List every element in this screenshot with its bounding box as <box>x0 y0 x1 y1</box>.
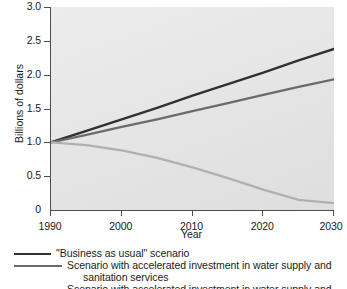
legend-item-third-scenario[interactable]: Scenario with accelerated investment in … <box>0 284 347 289</box>
chart-legend: "Business as usual" scenario Scenario wi… <box>0 246 347 289</box>
y-tick-text: 2.0 <box>27 69 41 80</box>
series-lines <box>51 7 334 210</box>
y-tick-text: 0.5 <box>27 170 41 181</box>
legend-label: "Business as usual" scenario <box>56 248 189 259</box>
y-tick-text: 1.0 <box>27 136 41 147</box>
legend-label-continuation: sanitation services <box>83 272 168 283</box>
y-tick-label-0: 0 <box>0 204 41 216</box>
y-tick-label-3-0: 3.0 <box>0 1 41 13</box>
y-tick-text: 3.0 <box>27 1 41 12</box>
y-axis-title: Billions of dollars <box>14 39 25 169</box>
series-line-accelerated-investment <box>51 79 334 142</box>
series-line-business-as-usual <box>51 49 334 142</box>
x-axis-title: Year <box>50 229 333 240</box>
legend-item-business-as-usual[interactable]: "Business as usual" scenario <box>0 248 347 259</box>
legend-label: Scenario with accelerated investment in … <box>67 260 332 271</box>
y-tick-text: 1.5 <box>27 103 41 114</box>
legend-swatch-line <box>14 265 62 267</box>
legend-item-accelerated-investment[interactable]: Scenario with accelerated investment in … <box>0 260 347 271</box>
y-tick-text: 0 <box>35 204 41 215</box>
series-line-third-scenario <box>51 142 334 203</box>
legend-label: Scenario with accelerated investment in … <box>67 284 332 289</box>
plot-area <box>50 7 334 211</box>
y-tick-text: 2.5 <box>27 35 41 46</box>
line-chart: 3.0 2.5 2.0 1.5 1.0 0.5 0 <box>0 0 347 232</box>
figure: 3.0 2.5 2.0 1.5 1.0 0.5 0 <box>0 0 347 289</box>
y-tick-label-0-5: 0.5 <box>0 170 41 182</box>
legend-swatch-line <box>14 253 51 255</box>
